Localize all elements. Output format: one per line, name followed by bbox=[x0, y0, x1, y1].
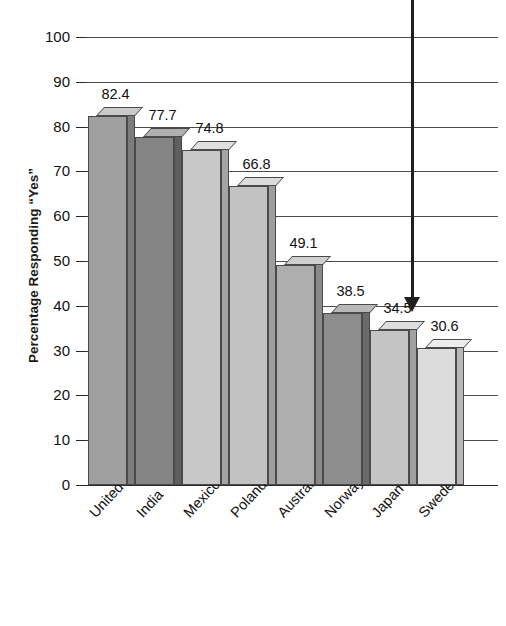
annotation-arrow-head bbox=[404, 297, 420, 312]
bar-side-face bbox=[362, 304, 370, 485]
bar-series bbox=[0, 0, 506, 626]
bar-top-face bbox=[190, 141, 237, 150]
bar-side-face bbox=[221, 141, 229, 485]
bar-front-face bbox=[88, 116, 127, 485]
bar-side-face bbox=[409, 321, 417, 485]
bar-value-label: 82.4 bbox=[88, 87, 143, 102]
bar-value-label: 38.5 bbox=[323, 284, 378, 299]
bar-front-face bbox=[135, 137, 174, 485]
bar-top-face bbox=[237, 177, 284, 186]
bar-value-label: 49.1 bbox=[276, 236, 331, 251]
bar-front-face bbox=[229, 186, 268, 485]
bar-front-face bbox=[323, 313, 362, 485]
bar-front-face bbox=[182, 150, 221, 485]
bar-value-label: 66.8 bbox=[229, 157, 284, 172]
bar-side-face bbox=[315, 256, 323, 485]
bar-side-face bbox=[174, 128, 182, 485]
bar-side-face bbox=[268, 177, 276, 485]
annotation-arrow-shaft bbox=[411, 0, 414, 300]
bar-front-face bbox=[370, 330, 409, 485]
bar-value-label: 30.6 bbox=[417, 319, 472, 334]
bar-top-face bbox=[143, 128, 190, 137]
bar-value-label: 74.8 bbox=[182, 121, 237, 136]
bar-side-face bbox=[127, 107, 135, 485]
bar-top-face bbox=[425, 339, 472, 348]
bar-value-label: 77.7 bbox=[135, 108, 190, 123]
bar-top-face bbox=[96, 107, 143, 116]
bar-front-face bbox=[276, 265, 315, 485]
bar-top-face bbox=[284, 256, 331, 265]
bar-top-face bbox=[331, 304, 378, 313]
bar-front-face bbox=[417, 348, 456, 485]
bar-side-face bbox=[456, 339, 464, 485]
chart-figure: ...AND SHARE SHOT Percentage Responding … bbox=[0, 0, 506, 626]
